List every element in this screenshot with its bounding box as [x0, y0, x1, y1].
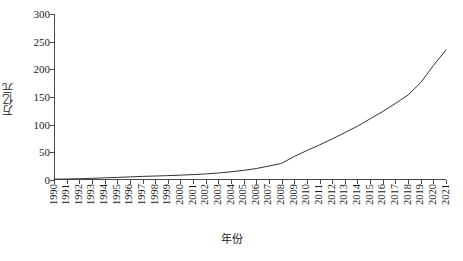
x-axis-tick-label: 2003 — [213, 184, 224, 205]
x-axis-tick-label: 2019 — [415, 184, 426, 205]
x-axis-tick-label: 2001 — [188, 184, 199, 205]
y-axis-tick-label: 50 — [39, 147, 50, 158]
x-axis-tick-label: 1990 — [49, 184, 60, 205]
y-axis-tick-label: 300 — [34, 9, 51, 20]
y-axis-tick-mark — [50, 69, 54, 70]
x-axis-tick-label: 2018 — [403, 184, 414, 205]
y-axis-tick-mark — [50, 14, 54, 15]
x-axis-tick-label: 2015 — [365, 184, 376, 205]
x-axis-tick-label: 2004 — [226, 184, 237, 205]
x-axis-tick-label: 1998 — [150, 184, 161, 205]
x-axis-tick-label: 1994 — [99, 184, 110, 205]
x-axis-tick-label: 2000 — [175, 184, 186, 205]
x-axis-tick-label: 1993 — [86, 184, 97, 205]
y-axis-tick-mark — [50, 152, 54, 153]
line-chart-figure: 万亿元 050100150200250300 19901991199219931… — [0, 0, 463, 261]
y-axis-tick-mark — [50, 125, 54, 126]
y-axis-tick-mark — [50, 97, 54, 98]
x-axis-tick-label: 2005 — [238, 184, 249, 205]
y-axis-tick-label-group: 050100150200250300 — [14, 0, 50, 200]
x-axis-tick-label: 2021 — [441, 184, 452, 205]
x-axis-tick-label: 1997 — [137, 184, 148, 205]
plot-area — [54, 14, 446, 180]
x-axis-tick-label: 2014 — [352, 184, 363, 205]
x-axis-tick-label: 1991 — [61, 184, 72, 205]
x-axis-tick-label: 2008 — [276, 184, 287, 205]
x-axis-tick-label: 2013 — [339, 184, 350, 205]
x-axis-tick-label: 2009 — [289, 184, 300, 205]
data-series-line — [54, 14, 446, 180]
x-axis-tick-label: 2016 — [377, 184, 388, 205]
y-axis-tick-label: 150 — [34, 92, 51, 103]
x-axis-tick-label: 1999 — [162, 184, 173, 205]
y-axis-tick-label: 100 — [34, 119, 51, 130]
x-axis-tick-label: 1992 — [74, 184, 85, 205]
y-axis-tick-label: 200 — [34, 64, 51, 75]
y-axis-tick-label: 250 — [34, 36, 51, 47]
x-axis-tick-label: 2002 — [200, 184, 211, 205]
x-axis-tick-label: 2017 — [390, 184, 401, 205]
x-axis-title: 年份 — [0, 234, 463, 245]
x-axis-tick-label: 1995 — [112, 184, 123, 205]
series-path — [54, 50, 446, 179]
x-axis-tick-label: 2006 — [251, 184, 262, 205]
x-axis-tick-label: 2007 — [263, 184, 274, 205]
x-axis-tick-label: 2011 — [314, 184, 325, 205]
x-axis-tick-label: 2010 — [301, 184, 312, 205]
x-axis-tick-label: 2012 — [327, 184, 338, 205]
y-axis-tick-mark — [50, 42, 54, 43]
x-axis-tick-label: 2020 — [428, 184, 439, 205]
x-axis-tick-label: 1996 — [124, 184, 135, 205]
x-axis-tick-label-group: 1990199119921993199419951996199719981999… — [54, 184, 446, 232]
